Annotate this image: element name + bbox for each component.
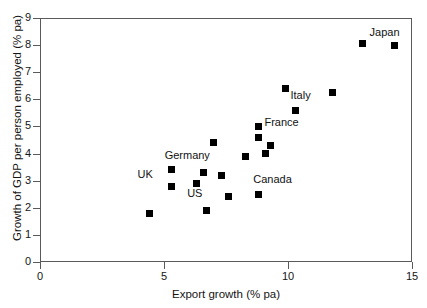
data-point-canada <box>255 191 262 198</box>
data-point-0 <box>146 210 153 217</box>
data-point-italy <box>282 85 289 92</box>
scatter-chart: 0123456789 051015 UKUSGermanyFranceCanad… <box>0 0 427 308</box>
data-point-8 <box>225 193 232 200</box>
plot-area <box>40 18 412 262</box>
point-label-italy: Italy <box>290 90 310 101</box>
point-label-uk: UK <box>138 169 153 180</box>
data-point-us <box>203 207 210 214</box>
x-tick-10 <box>288 262 289 269</box>
y-tick-8 <box>33 45 40 46</box>
data-point-10 <box>255 123 262 130</box>
point-label-japan: Japan <box>370 27 400 38</box>
y-tick-3 <box>33 181 40 182</box>
x-tick-5 <box>164 262 165 269</box>
y-tick-0 <box>33 262 40 263</box>
y-tick-4 <box>33 154 40 155</box>
data-point-17 <box>329 89 336 96</box>
data-point-12 <box>267 142 274 149</box>
y-tick-1 <box>33 235 40 236</box>
data-point-2 <box>168 183 175 190</box>
x-tick-label-15: 15 <box>397 271 427 282</box>
data-point-16 <box>292 107 299 114</box>
data-point-france <box>255 134 262 141</box>
data-point-18 <box>359 40 366 47</box>
data-point-japan <box>391 42 398 49</box>
point-label-us: US <box>187 188 202 199</box>
point-label-france: France <box>264 117 298 128</box>
x-tick-0 <box>40 262 41 269</box>
y-tick-label-text: 0 <box>5 256 31 267</box>
data-point-5 <box>200 169 207 176</box>
data-point-13 <box>262 150 269 157</box>
y-tick-7 <box>33 72 40 73</box>
data-point-germany <box>210 139 217 146</box>
y-tick-2 <box>33 208 40 209</box>
data-point-7 <box>218 172 225 179</box>
y-axis-title: Growth of GDP per person employed (% pa) <box>11 3 23 253</box>
y-tick-9 <box>33 18 40 19</box>
data-point-9 <box>242 153 249 160</box>
y-tick-5 <box>33 126 40 127</box>
y-tick-6 <box>33 99 40 100</box>
data-point-uk <box>168 166 175 173</box>
point-label-germany: Germany <box>165 150 210 161</box>
x-tick-label-5: 5 <box>149 271 179 282</box>
x-tick-label-10: 10 <box>273 271 303 282</box>
point-label-canada: Canada <box>253 174 292 185</box>
x-tick-label-0: 0 <box>25 271 55 282</box>
x-axis-title: Export growth (% pa) <box>40 288 412 300</box>
data-point-3 <box>193 180 200 187</box>
x-tick-15 <box>412 262 413 269</box>
